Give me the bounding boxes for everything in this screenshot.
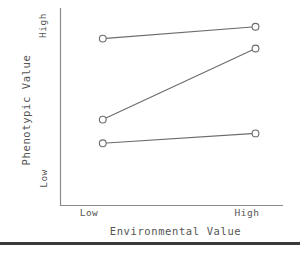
series-3	[99, 130, 259, 147]
y-axis-title: Phenotypic Value	[20, 40, 32, 180]
data-point-marker	[252, 45, 259, 52]
data-series-layer	[99, 23, 259, 146]
series-line	[103, 133, 256, 143]
series-line	[103, 48, 256, 119]
x-tick-label-low: Low	[62, 207, 116, 218]
data-point-marker	[99, 35, 106, 42]
reaction-norm-figure: Phenotypic Value High Low Low High Envir…	[0, 0, 300, 253]
series-1	[99, 23, 259, 42]
page-divider-rule	[0, 242, 300, 245]
data-point-marker	[252, 23, 259, 30]
data-point-marker	[99, 140, 106, 147]
x-axis-title: Environmental Value	[68, 225, 283, 237]
y-tick-label-low: Low	[38, 151, 49, 207]
data-point-marker	[252, 130, 259, 137]
x-tick-label-high: High	[220, 207, 274, 218]
series-line	[103, 27, 256, 39]
data-point-marker	[99, 116, 106, 123]
series-2	[99, 45, 259, 123]
y-tick-label-high: High	[37, 0, 48, 54]
